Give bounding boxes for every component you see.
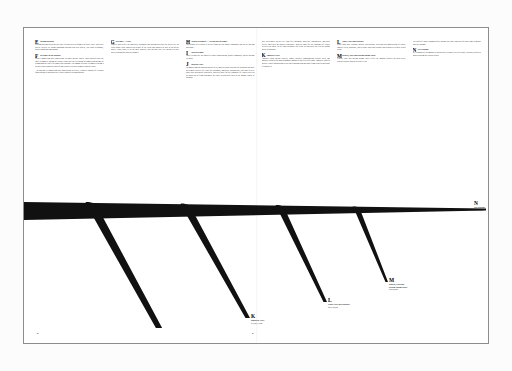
section-letter-h: H <box>186 40 190 45</box>
diagram-label-m: M Federal, State and Foreign Income Taxe… <box>389 278 407 290</box>
diagram-label-m-value: $94,582,000 <box>389 288 407 290</box>
section-letter-j: J <box>186 62 189 67</box>
diagram-label-k: K Employee Costs $1,648,217,000 <box>251 314 264 324</box>
paragraph: Over half of Fluor's earnings before inc… <box>413 40 482 45</box>
section-l: LOther Costs and ExpensesOther costs and… <box>337 40 406 51</box>
section-letter-g: G <box>111 40 115 45</box>
text-column-3: HNatural Resources — Oil and Gas Revenue… <box>186 40 255 145</box>
section-i: ITotal RevenuesTotal revenues are the su… <box>186 51 255 59</box>
text-column-1: EDrilling BacklogDrilling backlog repres… <box>35 40 104 145</box>
section-body: Total revenues are the sum of revenues f… <box>186 54 255 59</box>
text-column-2: GRevenues — CostsOwners' costs reflect t… <box>111 40 180 145</box>
annual-report-spread: EDrilling BacklogDrilling backlog repres… <box>23 27 489 344</box>
section-body: Drilling backlog represents the value of… <box>35 43 104 51</box>
paragraph: have been made directly by Fluor for equ… <box>262 40 331 51</box>
paragraph: In engineering and construction activiti… <box>186 66 255 79</box>
section-body: The balance of revenues is derived from … <box>186 43 255 48</box>
folio-left: 8 <box>37 332 38 335</box>
section-m: MFederal, State and Foreign Income Taxes… <box>337 54 406 62</box>
section-letter-k: K <box>262 53 266 58</box>
paragraph: Drilling backlog represents the value of… <box>35 43 104 51</box>
section-k: KEmployee CostsEmployee costs include sa… <box>262 54 331 68</box>
section-n: NNet EarningsNet earnings are the amount… <box>413 48 482 56</box>
diagram-label-k-value: $1,648,217,000 <box>251 322 264 324</box>
flow-diagram-svg <box>24 168 489 328</box>
paragraph: Total revenues are the sum of revenues f… <box>186 54 255 59</box>
section-letter-f: F <box>35 54 38 59</box>
paragraph: The balance of revenues is derived from … <box>186 43 255 48</box>
revenue-flow-diagram: J Material Costs $5,623,477,000 K Employ… <box>24 168 489 328</box>
flow-shapes <box>24 202 486 328</box>
section-letter-l: L <box>337 40 340 45</box>
section-body: In engineering and construction activiti… <box>186 66 255 79</box>
flow-branch-m <box>352 206 389 282</box>
paragraph: Fluor's engineering and construction rev… <box>35 57 104 68</box>
text-column-5: LOther Costs and ExpensesOther costs and… <box>337 40 406 145</box>
section-body: Federal, state and foreign income taxes … <box>337 57 406 62</box>
section-continued-4-1: have been made directly by Fluor for equ… <box>262 40 331 51</box>
section-letter-i: I <box>186 51 188 56</box>
paragraph: Owners' costs reflect the materials, equ… <box>111 43 180 54</box>
diagram-label-n-value: $84,181,000 <box>474 209 485 211</box>
section-letter-e: E <box>35 40 38 45</box>
paragraph: Other costs and expenses include depreci… <box>337 43 406 51</box>
paragraph: Employee costs include salaries, wages, … <box>262 57 331 68</box>
section-e: EDrilling BacklogDrilling backlog repres… <box>35 40 104 51</box>
section-letter-m: M <box>337 54 342 59</box>
section-h: HNatural Resources — Oil and Gas Revenue… <box>186 40 255 48</box>
paragraph: Net earnings are the amount by which tot… <box>413 51 482 56</box>
section-body: Fluor's engineering and construction rev… <box>35 57 104 74</box>
section-body: Over half of Fluor's earnings before inc… <box>413 40 482 45</box>
diagram-label-n: N Net Earnings $84,181,000 <box>474 201 485 211</box>
section-body: Employee costs include salaries, wages, … <box>262 57 331 68</box>
text-columns: EDrilling BacklogDrilling backlog repres… <box>35 40 481 145</box>
section-continued-6-1: Over half of Fluor's earnings before inc… <box>413 40 482 45</box>
section-body: Owners' costs reflect the materials, equ… <box>111 43 180 54</box>
section-g: GRevenues — CostsOwners' costs reflect t… <box>111 40 180 54</box>
flow-branch-l <box>274 205 327 302</box>
text-column-4: have been made directly by Fluor for equ… <box>262 40 331 145</box>
diagram-label-l-value: $296,142,000 <box>328 306 350 308</box>
flow-branch-k <box>179 204 251 318</box>
screenshot-stage: EDrilling BacklogDrilling backlog repres… <box>0 0 512 371</box>
section-body: Other costs and expenses include depreci… <box>337 43 406 51</box>
section-letter-n: N <box>413 48 417 53</box>
section-f: FRevenues on the BacklogFluor's engineer… <box>35 54 104 74</box>
diagram-label-l: L Other Costs and Expenses $296,142,000 <box>328 298 350 308</box>
paragraph: Federal, state and foreign income taxes … <box>337 57 406 62</box>
text-column-6: Over half of Fluor's earnings before inc… <box>413 40 482 145</box>
section-body: have been made directly by Fluor for equ… <box>262 40 331 51</box>
section-j: JMaterial CostsIn engineering and constr… <box>186 63 255 79</box>
flow-branch-j <box>83 202 176 328</box>
paragraph: In addition to engineering and construct… <box>35 69 104 74</box>
section-body: Net earnings are the amount by which tot… <box>413 51 482 56</box>
folio-right: 9 <box>252 332 253 335</box>
